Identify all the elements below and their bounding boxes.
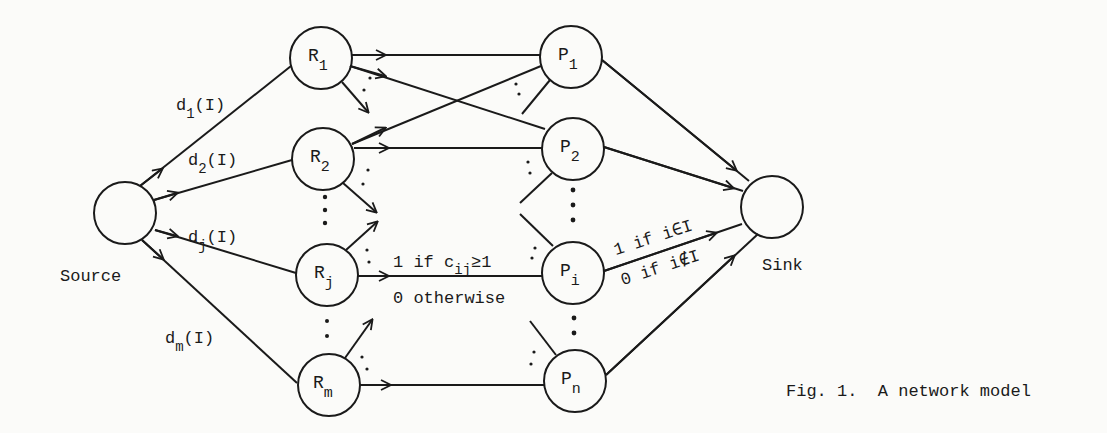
- source-label: Source: [60, 268, 121, 285]
- node-rm-label: Rm: [313, 374, 333, 392]
- edge-label-dm: dm(I): [165, 330, 214, 347]
- node-r1-label: R1: [308, 47, 328, 65]
- network-diagram: [0, 0, 1107, 433]
- edge-label-d2: d2(I): [188, 152, 237, 169]
- sink-label: Sink: [762, 257, 803, 274]
- edge-label-d1: d1(I): [176, 97, 225, 114]
- edge-label-middle-line2: 0 otherwise: [393, 290, 505, 307]
- node-p1-label: P1: [558, 46, 578, 64]
- node-pi-label: Pi: [560, 262, 580, 280]
- edge-label-dj: dj(I): [188, 229, 237, 246]
- sink-node: [741, 176, 803, 238]
- node-r2-label: R2: [310, 148, 330, 166]
- edge-label-middle-line1: 1 if cij≥1: [393, 254, 491, 271]
- figure-caption: Fig. 1. A network model: [786, 382, 1031, 401]
- source-node: [94, 182, 156, 244]
- node-pn-label: Pn: [561, 370, 581, 388]
- node-p2-label: P2: [560, 138, 580, 156]
- node-rj-label: Rj: [314, 264, 334, 282]
